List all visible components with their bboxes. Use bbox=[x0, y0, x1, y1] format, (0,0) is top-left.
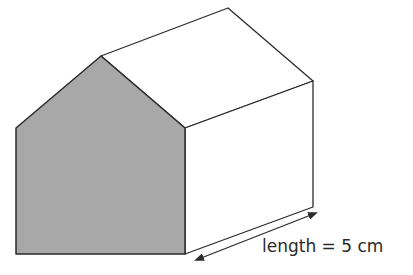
length-label: length = 5 cm bbox=[262, 236, 383, 256]
prism-diagram bbox=[0, 0, 413, 275]
